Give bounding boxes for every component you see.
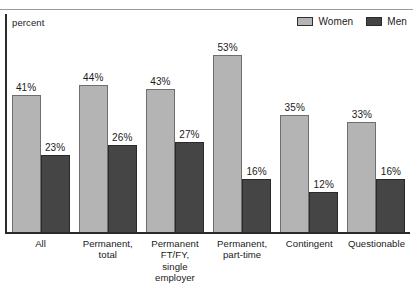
bar-men[interactable]: 16% bbox=[376, 32, 405, 232]
bar-value-label: 16% bbox=[369, 166, 413, 177]
bar-women[interactable]: 53% bbox=[213, 32, 242, 232]
bar-women[interactable]: 35% bbox=[280, 32, 309, 232]
bar-chart: percent Women Men 41%23%44%26%43%27%53%1… bbox=[0, 0, 413, 288]
category-label: Permanent, part-time bbox=[209, 238, 276, 284]
chart-legend: Women Men bbox=[297, 16, 407, 27]
bar-men[interactable]: 26% bbox=[108, 32, 137, 232]
category-label: Contingent bbox=[276, 238, 343, 284]
bar-men[interactable]: 16% bbox=[242, 32, 271, 232]
bar-rect[interactable] bbox=[280, 115, 309, 232]
legend-swatch-women-icon bbox=[297, 17, 313, 26]
bar-value-label: 16% bbox=[235, 166, 279, 177]
bar-women[interactable]: 41% bbox=[12, 32, 41, 232]
bar-men[interactable]: 23% bbox=[41, 32, 70, 232]
bar-rect[interactable] bbox=[213, 55, 242, 232]
bar-women[interactable]: 33% bbox=[347, 32, 376, 232]
x-axis-category-labels: AllPermanent, totalPermanent FT/FY, sing… bbox=[7, 238, 410, 284]
bar-group: 43%27% bbox=[141, 32, 208, 232]
bar-group: 44%26% bbox=[74, 32, 141, 232]
legend-item-men: Men bbox=[366, 16, 407, 27]
category-label: All bbox=[7, 238, 74, 284]
legend-item-women: Women bbox=[297, 16, 353, 27]
bar-value-label: 23% bbox=[33, 142, 77, 153]
category-label: Permanent, total bbox=[74, 238, 141, 284]
x-axis-line bbox=[5, 232, 410, 234]
legend-swatch-men-icon bbox=[366, 17, 382, 26]
legend-label-men: Men bbox=[387, 16, 407, 27]
bar-rect[interactable] bbox=[309, 192, 338, 232]
bar-rect[interactable] bbox=[41, 155, 70, 232]
bar-group: 35%12% bbox=[276, 32, 343, 232]
category-label: Permanent FT/FY, single employer bbox=[141, 238, 208, 284]
clipped-text-above bbox=[60, 0, 360, 6]
bar-value-label: 27% bbox=[167, 129, 211, 140]
bar-men[interactable]: 12% bbox=[309, 32, 338, 232]
bar-value-label: 26% bbox=[100, 132, 144, 143]
bar-group: 33%16% bbox=[343, 32, 410, 232]
bar-men[interactable]: 27% bbox=[175, 32, 204, 232]
bar-group: 41%23% bbox=[7, 32, 74, 232]
bar-rect[interactable] bbox=[347, 122, 376, 232]
bar-rect[interactable] bbox=[175, 142, 204, 232]
bar-rect[interactable] bbox=[146, 89, 175, 232]
bar-rect[interactable] bbox=[12, 95, 41, 232]
bar-rect[interactable] bbox=[242, 179, 271, 232]
bar-group: 53%16% bbox=[209, 32, 276, 232]
plot-area: 41%23%44%26%43%27%53%16%35%12%33%16% bbox=[7, 32, 410, 232]
top-divider-rule bbox=[0, 9, 413, 10]
bar-rect[interactable] bbox=[376, 179, 405, 232]
legend-label-women: Women bbox=[318, 16, 353, 27]
bar-value-label: 12% bbox=[302, 179, 346, 190]
category-label: Questionable bbox=[343, 238, 410, 284]
bar-rect[interactable] bbox=[79, 85, 108, 232]
y-axis-unit-label: percent bbox=[12, 17, 44, 28]
bar-rect[interactable] bbox=[108, 145, 137, 232]
